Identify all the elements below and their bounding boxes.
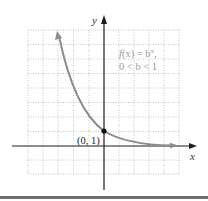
bottom-divider [0, 196, 208, 199]
exponential-decay-graph: y x f(x) = bx, 0 < b < 1 (0, 1) [0, 0, 208, 201]
y-axis-label: y [91, 14, 97, 26]
curve-arrow-right-icon [170, 143, 178, 148]
curve-arrow-left-icon [55, 31, 62, 40]
y-axis-arrow-icon [101, 15, 107, 24]
point-label: (0, 1) [77, 135, 100, 147]
x-axis-label: x [189, 150, 195, 162]
x-axis-arrow-icon [189, 143, 197, 149]
function-label-line1: f(x) = bx, [119, 47, 157, 60]
function-label-line2: 0 < b < 1 [119, 61, 157, 72]
intercept-point [101, 128, 106, 133]
